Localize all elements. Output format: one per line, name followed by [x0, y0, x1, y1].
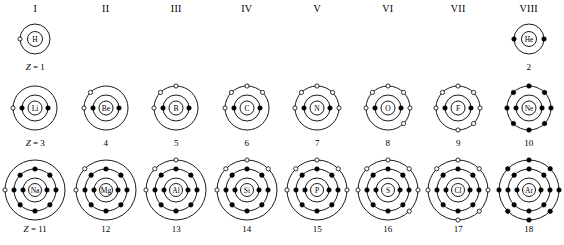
paired-electron-shell1-2 [256, 188, 261, 193]
unpaired-electron-shell2-2 [370, 90, 374, 94]
paired-electron-shell1-1 [373, 188, 378, 193]
paired-electron-shell1-2 [469, 106, 474, 111]
atom-ar[interactable]: Ar [494, 155, 564, 225]
paired-electron-shell2-1 [504, 106, 509, 111]
atom-h[interactable]: H [15, 19, 55, 59]
paired-electron-shell1-2 [328, 106, 333, 111]
unpaired-electron-shell2-1 [293, 106, 297, 110]
element-cell-na[interactable]: NaZ = 11 [0, 158, 71, 245]
atom-b[interactable]: B [149, 81, 203, 135]
element-cell-cl[interactable]: Cl17 [423, 158, 494, 245]
element-cell-b[interactable]: B5 [141, 80, 212, 160]
element-cell-p[interactable]: P15 [282, 158, 353, 245]
atom-ne[interactable]: Ne [502, 81, 556, 135]
unpaired-electron-shell2-1 [364, 106, 368, 110]
unpaired-electron-shell3-4 [407, 167, 411, 171]
unpaired-electron-shell2-2 [159, 90, 163, 94]
paired-electron-shell2-4 [330, 173, 335, 178]
paired-electron-shell2-6 [189, 203, 194, 208]
unpaired-electron-shell3-4 [477, 167, 481, 171]
paired-electron-shell1-2 [327, 188, 332, 193]
group-header-row: IIIIIIIVVVIVIIVIII [0, 0, 564, 20]
atomic-number-label-f: 9 [456, 137, 461, 149]
unpaired-electron-shell3-1 [426, 188, 430, 192]
element-symbol: Ne [524, 104, 533, 113]
unpaired-electron-shell2-4 [472, 90, 476, 94]
element-cell-ar[interactable]: Ar18 [494, 158, 564, 245]
period-row-2: LiZ = 3Be4B5C6N7O8F9Ne10 [0, 80, 564, 160]
paired-electron-shell2-3 [244, 167, 249, 172]
element-cell-n[interactable]: N7 [282, 80, 353, 160]
paired-electron-shell2-5 [195, 188, 200, 193]
unpaired-electron-shell3-3 [174, 158, 178, 162]
unpaired-electron-shell2-5 [408, 106, 412, 110]
atom-be[interactable]: Be [79, 81, 133, 135]
atomic-number-label-ne: 10 [524, 137, 533, 149]
paired-electron-shell2-5 [54, 188, 59, 193]
paired-electron-shell2-2 [18, 173, 23, 178]
paired-electron-shell3-7 [526, 218, 531, 223]
atom-cl[interactable]: Cl [423, 155, 493, 225]
atom-n[interactable]: N [290, 81, 344, 135]
atomic-number-label-b: 5 [174, 137, 179, 149]
element-cell-si[interactable]: Si14 [212, 158, 283, 245]
element-symbol: N [315, 104, 321, 113]
atomic-number-label-be: 4 [104, 137, 109, 149]
paired-electron-shell1-1 [302, 106, 307, 111]
element-cell-o[interactable]: O8 [353, 80, 424, 160]
paired-electron-shell2-1 [82, 188, 87, 193]
atomic-number-label-he: 2 [527, 61, 532, 73]
unpaired-electron-shell2-4 [331, 90, 335, 94]
unpaired-electron-shell3-6 [477, 209, 481, 213]
unpaired-electron-shell2-1 [434, 106, 438, 110]
atom-mg[interactable]: Mg [71, 155, 141, 225]
paired-electron-shell2-6 [542, 121, 547, 126]
paired-electron-shell1-1 [20, 106, 25, 111]
unpaired-electron-shell2-1 [223, 106, 227, 110]
paired-electron-shell2-5 [265, 188, 270, 193]
paired-electron-shell1-2 [186, 188, 191, 193]
unpaired-electron-shell3-2 [294, 167, 298, 171]
element-cell-ne[interactable]: Ne10 [494, 80, 564, 160]
element-cell-he[interactable]: He2 [494, 18, 564, 80]
paired-electron-shell2-3 [174, 167, 179, 172]
paired-electron-shell2-8 [371, 203, 376, 208]
unpaired-electron-shell3-2 [435, 167, 439, 171]
element-cell-h[interactable]: HZ = 1 [0, 18, 71, 80]
group-header-ii: II [71, 0, 142, 20]
element-cell-be[interactable]: Be4 [71, 80, 142, 160]
paired-electron-shell2-7 [456, 209, 461, 214]
element-cell-s[interactable]: S16 [353, 158, 424, 245]
atom-f[interactable]: F [431, 81, 485, 135]
paired-electron-shell3-8 [505, 209, 510, 214]
atom-he[interactable]: He [509, 19, 549, 59]
atom-p[interactable]: P [282, 155, 352, 225]
atom-o[interactable]: O [361, 81, 415, 135]
group-header-vi: VI [353, 0, 424, 20]
element-cell-mg[interactable]: Mg12 [71, 158, 142, 245]
paired-electron-shell2-2 [159, 173, 164, 178]
element-cell-al[interactable]: Al13 [141, 158, 212, 245]
paired-electron-shell2-2 [512, 173, 517, 178]
atom-na[interactable]: Na [0, 155, 70, 225]
atomic-number-label-li: Z = 3 [26, 137, 45, 149]
element-cell-f[interactable]: F9 [423, 80, 494, 160]
paired-electron-shell1-2 [538, 188, 543, 193]
unpaired-electron-shell2-3 [315, 84, 319, 88]
atom-al[interactable]: Al [141, 155, 211, 225]
unpaired-electron-shell2-3 [245, 84, 249, 88]
atom-si[interactable]: Si [212, 155, 282, 225]
element-cell-li[interactable]: LiZ = 3 [0, 80, 71, 160]
group-header-v: V [282, 0, 353, 20]
atom-li[interactable]: Li [8, 81, 62, 135]
group-header-i: I [0, 0, 71, 20]
unpaired-electron-shell3-2 [364, 167, 368, 171]
paired-electron-shell2-3 [526, 167, 531, 172]
element-cell-c[interactable]: C6 [212, 80, 283, 160]
paired-electron-shell2-6 [118, 203, 123, 208]
atom-c[interactable]: C [220, 81, 274, 135]
atom-s[interactable]: S [353, 155, 423, 225]
paired-electron-shell2-3 [385, 167, 390, 172]
paired-electron-shell1-2 [45, 188, 50, 193]
paired-electron-shell2-5 [548, 106, 553, 111]
